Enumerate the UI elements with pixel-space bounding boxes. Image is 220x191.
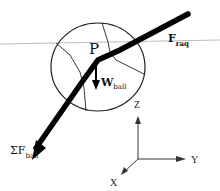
y-arrowhead: [176, 156, 186, 162]
diagram-svg: P Fraq Wball ΣFball Z Y X: [0, 0, 220, 191]
point-label: P: [89, 40, 99, 58]
coordinate-axes: Z Y X: [110, 99, 198, 188]
y-axis-label: Y: [191, 154, 198, 165]
x-axis-label: X: [110, 177, 118, 188]
f-raq-label: Fraq: [168, 32, 189, 48]
weight-arrowhead: [92, 80, 100, 90]
x-arrowhead: [121, 167, 128, 175]
z-arrowhead: [135, 116, 141, 124]
z-axis-label: Z: [134, 99, 140, 110]
w-ball-label: Wball: [100, 76, 127, 91]
force-diagram: P Fraq Wball ΣFball Z Y X: [0, 0, 220, 191]
